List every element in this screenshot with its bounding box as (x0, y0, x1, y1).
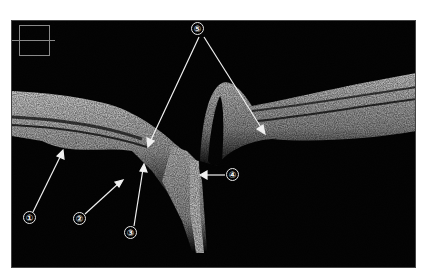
scan-position-line (12, 40, 55, 41)
annotation-label-4: ④ (226, 168, 239, 181)
annotation-label-1: ① (23, 211, 36, 224)
annotation-label-3: ③ (124, 226, 137, 239)
annotation-label-5: ⑤ (191, 22, 204, 35)
oct-scan-image (11, 20, 416, 268)
annotation-label-2: ② (73, 212, 86, 225)
retina-layers-graphic (12, 21, 416, 268)
